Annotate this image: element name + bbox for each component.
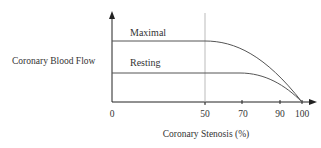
series-maximal-line (112, 41, 302, 102)
x-axis-label: Coronary Stenosis (%) (163, 129, 250, 140)
x-tick-label-90: 90 (275, 109, 285, 119)
series-label-resting: Resting (130, 57, 161, 68)
series-label-maximal: Maximal (130, 27, 166, 38)
x-axis-arrow-icon (309, 99, 317, 105)
x-tick-label-0: 0 (110, 109, 115, 119)
y-axis-arrow-icon (109, 11, 115, 19)
x-tick-label-50: 50 (200, 109, 210, 119)
series-resting-line (112, 73, 302, 102)
chart-canvas: Maximal Resting Coronary Blood Flow 0 50… (0, 0, 321, 148)
x-tick-label-70: 70 (238, 109, 248, 119)
x-tick-label-100: 100 (295, 109, 310, 119)
y-axis-label: Coronary Blood Flow (12, 56, 96, 66)
